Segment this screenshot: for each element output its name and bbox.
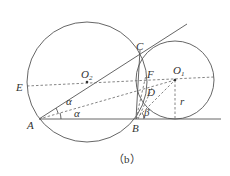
figure-caption: （b）	[113, 153, 141, 165]
label-alpha-lower: α	[74, 107, 80, 119]
label-beta: β	[143, 106, 150, 118]
tangent-line-AC	[39, 24, 187, 119]
label-D: D	[146, 86, 155, 98]
point-O2	[86, 81, 89, 84]
label-B: B	[132, 122, 139, 134]
label-E: E	[15, 81, 23, 93]
label-O1: O1	[173, 64, 184, 78]
label-r: r	[180, 95, 185, 107]
angle-arc-alpha-upper	[56, 108, 58, 113]
angle-arc-alpha-lower	[60, 113, 61, 119]
geometry-diagram: E O2 C F O1 D α α β r A B （b）	[0, 0, 230, 176]
dashed-line-E-O1	[27, 77, 214, 86]
label-alpha-upper: α	[66, 95, 72, 107]
label-A: A	[26, 119, 34, 131]
label-F: F	[146, 68, 154, 80]
point-O1	[174, 79, 177, 82]
label-C: C	[136, 40, 144, 52]
label-O2: O2	[81, 68, 93, 82]
